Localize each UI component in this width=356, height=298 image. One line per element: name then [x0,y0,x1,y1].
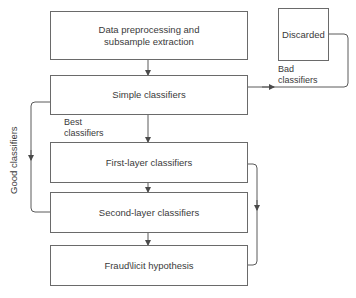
node-discarded-label: Discarded [282,29,325,41]
edge-label-good-classifiers: Good classifiers [8,126,19,194]
connector-first-layer-to-hypothesis [247,164,257,265]
node-second-layer-label: Second-layer classifiers [99,207,199,219]
edge-label-bad-line1: Bad [278,64,318,75]
node-preprocessing-line1: Data preprocessing and [99,24,200,36]
node-first-layer-label: First-layer classifiers [106,157,193,169]
edge-label-best-classifiers: Best classifiers [64,117,104,139]
edge-label-best-line2: classifiers [64,128,104,139]
connector-good-classifiers [31,102,50,212]
node-fraud-licit-hypothesis: Fraud\licit hypothesis [50,245,248,286]
node-preprocessing-line2: subsample extraction [99,36,200,48]
node-preprocessing: Data preprocessing and subsample extract… [50,11,248,60]
edge-label-best-line1: Best [64,117,104,128]
node-first-layer-classifiers: First-layer classifiers [50,142,248,183]
node-hypothesis-label: Fraud\licit hypothesis [104,260,193,272]
node-discarded: Discarded [278,8,329,61]
edge-label-bad-classifiers: Bad classifiers [278,64,318,86]
edge-label-bad-line2: classifiers [278,75,318,86]
node-simple-classifiers-label: Simple classifiers [112,89,185,101]
node-second-layer-classifiers: Second-layer classifiers [50,192,248,233]
node-simple-classifiers: Simple classifiers [50,75,248,115]
